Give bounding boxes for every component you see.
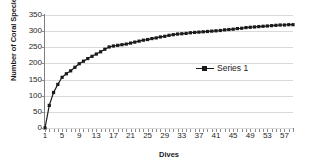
y-tick-label: 150 bbox=[20, 76, 42, 84]
data-point-marker bbox=[257, 25, 260, 28]
data-point-marker bbox=[279, 23, 282, 26]
data-point-marker bbox=[73, 66, 76, 69]
data-point-marker bbox=[261, 25, 264, 28]
legend-entry-label: Series 1 bbox=[217, 63, 248, 73]
x-tick-label: 37 bbox=[191, 131, 207, 140]
x-tick-label: 25 bbox=[140, 131, 156, 140]
data-point-marker bbox=[180, 32, 183, 35]
data-point-marker bbox=[61, 76, 64, 79]
data-point-marker bbox=[133, 41, 136, 44]
data-point-marker bbox=[167, 34, 170, 37]
x-tick-label: 41 bbox=[208, 131, 224, 140]
legend-line-marker-icon bbox=[196, 68, 214, 69]
data-point-marker bbox=[163, 35, 166, 38]
y-tick-mark bbox=[41, 47, 44, 48]
y-tick-label: 50 bbox=[20, 108, 42, 116]
x-tick-label: 33 bbox=[174, 131, 190, 140]
data-point-marker bbox=[103, 48, 106, 51]
data-point-marker bbox=[253, 25, 256, 28]
x-tick-label: 17 bbox=[105, 131, 121, 140]
coral-species-accumulation-chart: Number of Coral Species 0501001502002503… bbox=[0, 0, 311, 168]
x-tick-mark bbox=[293, 129, 294, 132]
data-point-marker bbox=[120, 43, 123, 46]
y-tick-mark bbox=[41, 80, 44, 81]
x-tick-label: 45 bbox=[225, 131, 241, 140]
y-tick-mark bbox=[41, 15, 44, 16]
x-tick-label: 1 bbox=[37, 131, 53, 140]
x-tick-label: 57 bbox=[276, 131, 292, 140]
y-tick-mark bbox=[41, 63, 44, 64]
data-point-marker bbox=[219, 29, 222, 32]
data-point-marker bbox=[172, 33, 175, 36]
data-point-marker bbox=[125, 42, 128, 45]
data-point-marker bbox=[232, 28, 235, 31]
data-point-marker bbox=[214, 29, 217, 32]
legend-square-marker-icon bbox=[202, 66, 207, 71]
data-point-marker bbox=[223, 28, 226, 31]
x-tick-label: 5 bbox=[54, 131, 70, 140]
data-point-marker bbox=[90, 55, 93, 58]
y-axis-title: Number of Coral Species bbox=[9, 0, 18, 93]
y-tick-mark bbox=[41, 112, 44, 113]
data-point-marker bbox=[266, 24, 269, 27]
y-tick-label: 200 bbox=[20, 59, 42, 67]
data-point-marker bbox=[189, 31, 192, 34]
y-tick-mark bbox=[41, 31, 44, 32]
x-axis-title: Dives bbox=[44, 150, 294, 159]
x-tick-label: 49 bbox=[242, 131, 258, 140]
y-axis-tick-labels: 050100150200250300350 bbox=[18, 0, 42, 168]
data-point-marker bbox=[150, 37, 153, 40]
data-point-marker bbox=[129, 41, 132, 44]
data-point-marker bbox=[86, 57, 89, 60]
data-point-marker bbox=[137, 40, 140, 43]
x-tick-label: 29 bbox=[157, 131, 173, 140]
data-point-marker bbox=[244, 26, 247, 29]
data-point-marker bbox=[116, 44, 119, 47]
data-point-marker bbox=[146, 38, 149, 41]
data-point-marker bbox=[249, 26, 252, 29]
data-point-marker bbox=[193, 31, 196, 34]
data-point-marker bbox=[283, 23, 286, 26]
data-point-marker bbox=[274, 24, 277, 27]
data-point-marker bbox=[210, 30, 213, 33]
data-point-marker bbox=[176, 32, 179, 35]
x-tick-label: 13 bbox=[88, 131, 104, 140]
data-point-marker bbox=[82, 60, 85, 63]
data-point-marker bbox=[52, 91, 55, 94]
data-point-marker bbox=[108, 45, 111, 48]
data-point-marker bbox=[99, 50, 102, 53]
data-point-marker bbox=[69, 69, 72, 72]
x-tick-label: 21 bbox=[123, 131, 139, 140]
data-point-marker bbox=[287, 23, 290, 26]
data-point-marker bbox=[197, 31, 200, 34]
y-tick-mark bbox=[41, 128, 44, 129]
data-point-marker bbox=[78, 62, 81, 65]
data-point-marker bbox=[291, 23, 294, 26]
y-tick-label: 350 bbox=[20, 11, 42, 19]
data-point-marker bbox=[240, 27, 243, 30]
data-point-marker bbox=[270, 24, 273, 27]
data-point-marker bbox=[56, 83, 59, 86]
data-point-marker bbox=[95, 52, 98, 55]
data-point-marker bbox=[65, 72, 68, 75]
data-point-marker bbox=[202, 30, 205, 33]
data-point-marker bbox=[206, 30, 209, 33]
chart-legend: Series 1 bbox=[196, 61, 248, 75]
x-tick-label: 53 bbox=[259, 131, 275, 140]
data-point-marker bbox=[112, 44, 115, 47]
y-tick-mark bbox=[41, 96, 44, 97]
data-point-marker bbox=[159, 35, 162, 38]
data-point-marker bbox=[142, 39, 145, 42]
data-point-marker bbox=[48, 104, 51, 107]
y-tick-label: 250 bbox=[20, 43, 42, 51]
x-tick-label: 9 bbox=[71, 131, 87, 140]
plot-area bbox=[45, 15, 293, 128]
data-point-marker bbox=[236, 27, 239, 30]
data-point-marker bbox=[155, 36, 158, 39]
data-point-marker bbox=[185, 32, 188, 35]
y-tick-label: 300 bbox=[20, 27, 42, 35]
series-1-line bbox=[45, 15, 293, 128]
data-point-marker bbox=[227, 28, 230, 31]
y-tick-label: 100 bbox=[20, 92, 42, 100]
